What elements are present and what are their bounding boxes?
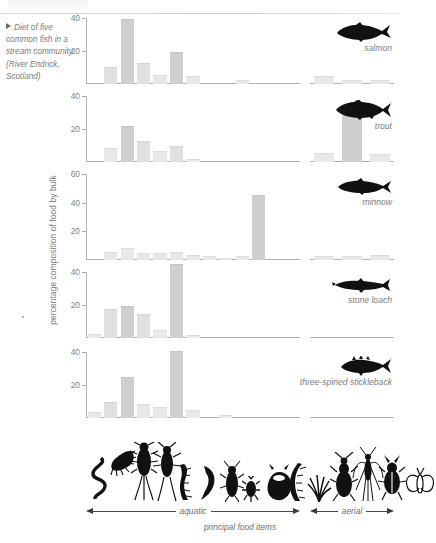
- bar: [370, 154, 390, 162]
- bar: [121, 306, 134, 338]
- figure-caption: Diet of five common fish in a stream com…: [6, 22, 78, 83]
- y-axis-salmon: [86, 18, 87, 84]
- aquatic-label: aquatic: [176, 506, 211, 516]
- bar: [88, 412, 101, 418]
- trout-icon: [334, 100, 392, 120]
- bar: [153, 407, 166, 418]
- y-tick-three-spined-stickleback-20: [82, 385, 86, 386]
- bar: [121, 377, 134, 418]
- y-tick-minnow-40: [82, 203, 86, 204]
- panel-minnow: 204060 minnow: [86, 174, 394, 260]
- food-item-illustrations: [86, 436, 394, 502]
- bar: [170, 252, 183, 260]
- aerial-label: aerial: [338, 506, 366, 516]
- arrow-line-left-aerial: [317, 511, 338, 512]
- bar: [342, 80, 362, 84]
- bar: [88, 334, 101, 338]
- y-tick-stone-loach-40: [82, 272, 86, 273]
- bar: [219, 415, 232, 418]
- bar: [236, 256, 249, 260]
- y-tick-label-minnow-20: 20: [71, 226, 80, 236]
- midge-silhouette-icon: [242, 476, 260, 502]
- bar: [104, 67, 117, 85]
- bar: [121, 126, 134, 162]
- panel-stickleback: 2040 three-spined stickleback: [86, 352, 394, 418]
- species-name-stone-loach: stone loach: [332, 295, 392, 305]
- bar: [170, 351, 183, 418]
- fly-larva-silhouette-icon: [198, 464, 222, 502]
- y-tick-minnow-20: [82, 231, 86, 232]
- panel-salmon: 2040 salmon: [86, 18, 394, 84]
- bar: [370, 80, 390, 84]
- y-tick-trout-40: [82, 96, 86, 97]
- x-axis-aerial-stone-loach: [310, 337, 394, 338]
- bar: [252, 195, 265, 261]
- minnow-icon: [336, 178, 392, 196]
- bar: [186, 159, 199, 162]
- y-tick-salmon-40: [82, 18, 86, 19]
- triangle-bullet-icon: [6, 23, 11, 29]
- species-label-stickleback: three-spined stickleback: [300, 356, 392, 387]
- y-tick-label-minnow-40: 40: [71, 198, 80, 208]
- y-tick-label-minnow-60: 60: [71, 169, 80, 179]
- y-tick-minnow-60: [82, 174, 86, 175]
- bar: [186, 410, 199, 418]
- bar: [104, 148, 117, 162]
- bar: [137, 404, 150, 418]
- group-axis-arrows: aquatic aerial: [86, 505, 394, 519]
- header-rule: [0, 13, 400, 14]
- species-name-salmon: salmon: [334, 43, 392, 53]
- y-tick-label-stone-loach-40: 40: [71, 267, 80, 277]
- bar: [137, 314, 150, 338]
- arrow-head-right-aerial: [387, 508, 394, 514]
- bar: [186, 76, 199, 84]
- bar: [104, 252, 117, 260]
- y-tick-salmon-20: [82, 51, 86, 52]
- stickleback-icon: [338, 356, 392, 376]
- y-axis-trout: [86, 96, 87, 162]
- bar: [219, 258, 232, 261]
- caddis-case-silhouette-icon: [286, 462, 308, 502]
- arrow-line-left-aquatic: [93, 511, 176, 512]
- page-top-artifact: [8, 0, 88, 10]
- bar: [370, 255, 390, 260]
- panel-trout: 2040 trout: [86, 96, 394, 162]
- species-name-trout: trout: [334, 121, 392, 131]
- bar: [121, 19, 134, 84]
- y-tick-label-three-spined-stickleback-20: 20: [71, 380, 80, 390]
- y-axis-stickleback: [86, 352, 87, 418]
- bar: [236, 80, 249, 84]
- bar: [203, 256, 216, 260]
- bar: [104, 402, 117, 418]
- y-tick-label-three-spined-stickleback-40: 40: [71, 347, 80, 357]
- species-name-minnow: minnow: [336, 197, 392, 207]
- x-axis-aerial-stickleback: [310, 417, 394, 418]
- aquatic-range-arrow: aquatic: [86, 505, 300, 517]
- species-name-stickleback: three-spined stickleback: [300, 377, 392, 387]
- ground-beetle-silhouette-icon: [378, 454, 406, 502]
- bar: [186, 255, 199, 260]
- y-tick-label-salmon-20: 20: [71, 46, 80, 56]
- salmon-icon: [334, 22, 392, 42]
- margin-dot: [22, 316, 24, 318]
- bar: [342, 256, 362, 260]
- x-axis-title: principal food items: [86, 522, 394, 532]
- arrow-line-right-aerial: [366, 511, 387, 512]
- panel-stone-loach: 2040 stone loach: [86, 272, 394, 338]
- beetle-larva-silhouette-icon: [220, 458, 244, 502]
- bar: [137, 141, 150, 162]
- bar: [104, 309, 117, 338]
- y-tick-label-stone-loach-20: 20: [71, 300, 80, 310]
- bar: [314, 256, 334, 260]
- y-axis-minnow: [86, 174, 87, 260]
- winged-fly-silhouette-icon: [404, 462, 436, 502]
- bar: [153, 253, 166, 260]
- bar: [153, 151, 166, 162]
- bar: [170, 52, 183, 84]
- figure-caption-text: Diet of five common fish in a stream com…: [6, 23, 73, 81]
- arrow-head-left-aerial: [310, 508, 317, 514]
- bar: [137, 63, 150, 84]
- bar: [153, 75, 166, 84]
- arrow-head-right-aquatic: [293, 508, 300, 514]
- bar: [314, 153, 334, 162]
